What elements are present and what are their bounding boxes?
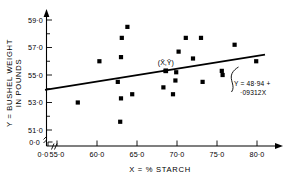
data-point — [125, 25, 129, 29]
data-points-group — [76, 25, 259, 124]
axis-break-marks — [44, 137, 58, 150]
data-point — [233, 43, 237, 47]
data-point — [130, 92, 134, 96]
data-point — [177, 50, 181, 54]
scatter-plot-figure: 55·060·065·070·075·080·0 51·053·055·057·… — [0, 0, 292, 178]
y-axis-title-line1: Y = BUSHEL WEIGHT — [5, 39, 14, 127]
x-tick-labels: 55·060·065·070·075·080·0 — [50, 150, 265, 159]
data-point — [221, 73, 225, 77]
data-point — [201, 80, 205, 84]
x-tick-label: 70·0 — [170, 150, 185, 159]
x-tick-label: 60·0 — [90, 150, 105, 159]
regression-equation-line1: Y = 48·94 + — [234, 80, 271, 87]
y-tick-labels: 51·053·055·057·059·0 — [28, 16, 43, 135]
y-tick-label: 57·0 — [28, 43, 43, 52]
data-point — [184, 36, 188, 40]
plot-canvas: 55·060·065·070·075·080·0 51·053·055·057·… — [0, 0, 292, 178]
centroid-marker — [164, 69, 169, 74]
x-origin-label: 0·0 — [38, 150, 49, 159]
data-point — [116, 80, 120, 84]
y-origin-label: 0·0 — [29, 138, 40, 147]
y-tick-label: 51·0 — [28, 126, 43, 135]
x-tick-label: 55·0 — [50, 150, 65, 159]
data-point — [119, 96, 123, 100]
regression-line — [45, 55, 265, 90]
x-tick-marks — [57, 141, 257, 147]
data-point — [191, 56, 195, 60]
x-tick-label: 80·0 — [250, 150, 265, 159]
y-axis-title-line2: IN POUNDS — [14, 59, 23, 108]
data-point — [174, 70, 178, 74]
y-axis-arrowhead — [44, 9, 50, 17]
y-tick-label: 53·0 — [28, 98, 43, 107]
data-point — [76, 100, 80, 104]
data-point — [161, 85, 165, 89]
data-point — [220, 69, 224, 73]
data-point — [118, 120, 122, 124]
y-tick-marks — [47, 20, 53, 130]
regression-equation-line2: ·09312X — [240, 89, 267, 96]
x-axis-title: X = % STARCH — [129, 165, 191, 174]
y-tick-label: 55·0 — [28, 71, 43, 80]
x-axis-arrowhead — [275, 143, 283, 149]
data-point — [171, 92, 175, 96]
x-tick-label: 65·0 — [130, 150, 145, 159]
data-point — [120, 36, 124, 40]
data-point — [97, 59, 101, 63]
y-axis — [44, 9, 50, 146]
data-point — [254, 59, 258, 63]
x-axis — [47, 143, 284, 149]
y-tick-label: 59·0 — [28, 16, 43, 25]
data-point — [199, 36, 203, 40]
x-tick-label: 75·0 — [210, 150, 225, 159]
data-point — [119, 55, 123, 59]
centroid-label: (X̄,Ȳ) — [158, 59, 174, 67]
data-point — [173, 78, 177, 82]
